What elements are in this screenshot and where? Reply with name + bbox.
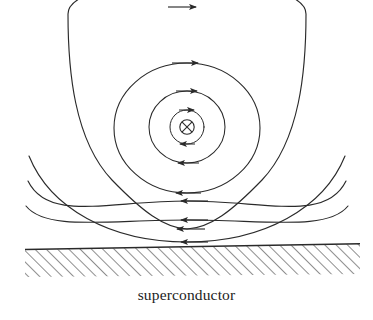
superconductor-slab — [25, 244, 360, 277]
superconductor-caption: superconductor — [0, 287, 373, 303]
magnetic-field-diagram — [0, 0, 373, 320]
figure-root: superconductor — [0, 0, 373, 320]
